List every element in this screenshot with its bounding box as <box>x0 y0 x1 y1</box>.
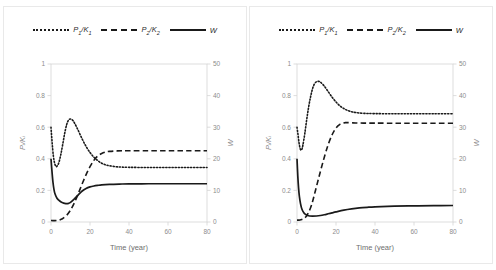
y2-tick-label: 30 <box>213 124 221 131</box>
y2-tick-label: 30 <box>459 124 467 131</box>
y-tick-label: 0.8 <box>36 92 45 99</box>
y2-tick-label: 0 <box>459 218 463 225</box>
plot-area-left: 02040608000.20.40.60.8101020304050Time (… <box>4 7 246 263</box>
y2-tick-label: 50 <box>459 60 467 67</box>
x-tick-label: 80 <box>203 228 211 235</box>
y2-tick-label: 40 <box>213 92 221 99</box>
y2-tick-label: 10 <box>459 187 467 194</box>
chart-panel-left: P1/K1 P2/K2 W 02040608000.20.40.60.81010… <box>3 6 247 264</box>
y2-tick-label: 10 <box>213 187 221 194</box>
x-tick-label: 40 <box>125 228 133 235</box>
y-tick-label: 0.2 <box>36 187 45 194</box>
x-axis-title: Time (year) <box>356 243 395 252</box>
series-p2k2 <box>51 151 207 221</box>
y2-tick-label: 20 <box>213 155 221 162</box>
y-tick-label: 0.2 <box>282 187 291 194</box>
x-tick-label: 20 <box>86 228 94 235</box>
y-tick-label: 0.6 <box>282 124 291 131</box>
series-p1k1 <box>297 81 453 150</box>
x-tick-label: 60 <box>410 228 418 235</box>
plot-frame <box>297 64 453 222</box>
y-axis-title: Pᵢ/Kᵢ <box>264 135 273 150</box>
series-w <box>51 159 207 204</box>
y-tick-label: 0 <box>41 218 45 225</box>
y-tick-label: 1 <box>287 60 291 67</box>
y2-tick-label: 0 <box>213 218 217 225</box>
y-tick-label: 0.4 <box>282 155 291 162</box>
y-axis-title: Pᵢ/Kᵢ <box>18 135 27 150</box>
y-tick-label: 0.6 <box>36 124 45 131</box>
x-tick-label: 0 <box>49 228 53 235</box>
x-tick-label: 40 <box>371 228 379 235</box>
y-tick-label: 0.4 <box>36 155 45 162</box>
x-axis-title: Time (year) <box>110 243 149 252</box>
plot-svg-right: 02040608000.20.40.60.8101020304050Time (… <box>250 7 494 265</box>
y2-tick-label: 20 <box>459 155 467 162</box>
x-tick-label: 80 <box>449 228 457 235</box>
y-tick-label: 1 <box>41 60 45 67</box>
y-tick-label: 0.8 <box>282 92 291 99</box>
figure-sheet: P1/K1 P2/K2 W 02040608000.20.40.60.81010… <box>0 0 496 270</box>
series-w <box>297 159 453 216</box>
y2-axis-title: W <box>472 139 481 147</box>
chart-panel-right: P1/K1 P2/K2 W 02040608000.20.40.60.81010… <box>249 6 493 264</box>
y2-axis-title: W <box>226 139 235 147</box>
y2-tick-label: 50 <box>213 60 221 67</box>
series-p1k1 <box>51 119 207 168</box>
y2-tick-label: 40 <box>459 92 467 99</box>
x-tick-label: 20 <box>332 228 340 235</box>
plot-area-right: 02040608000.20.40.60.8101020304050Time (… <box>250 7 492 263</box>
plot-svg-left: 02040608000.20.40.60.8101020304050Time (… <box>4 7 248 265</box>
x-tick-label: 0 <box>295 228 299 235</box>
x-tick-label: 60 <box>164 228 172 235</box>
y-tick-label: 0 <box>287 218 291 225</box>
